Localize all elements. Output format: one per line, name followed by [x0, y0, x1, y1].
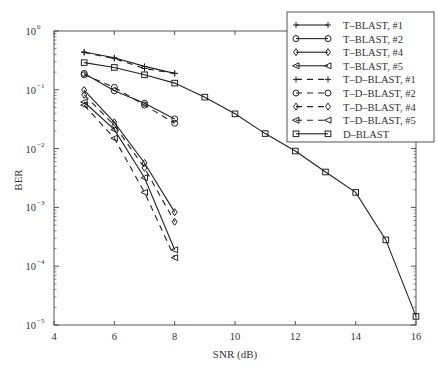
x-tick-label: 8 [172, 331, 177, 342]
y-tick-label: 10 [26, 202, 37, 213]
legend: T–BLAST, #1T–BLAST, #2T–BLAST, #4T–BLAST… [287, 12, 434, 142]
x-tick-label: 6 [112, 331, 117, 342]
y-axis-label: BER [12, 169, 24, 191]
legend-label: T–BLAST, #2 [343, 34, 403, 45]
x-tick-label: 12 [290, 331, 301, 342]
y-tick-label: 10 [26, 144, 37, 155]
series-line [82, 87, 178, 216]
triangle-left-marker-icon [141, 189, 148, 195]
y-tick-exponent: −2 [37, 141, 45, 149]
y-tick-label: 10 [26, 320, 37, 331]
plus-marker-icon [81, 50, 87, 56]
series-line [81, 102, 178, 261]
y-tick-label: 10 [26, 85, 37, 96]
chart-svg: 46810121416 10010−110−210−310−410−5 T–BL… [0, 0, 438, 369]
x-tick-label: 14 [350, 331, 361, 342]
series-line [82, 91, 178, 225]
y-tick-exponent: 0 [37, 23, 41, 31]
plus-marker-icon [172, 70, 178, 76]
y-tick-label: 10 [26, 26, 37, 37]
legend-label: T–BLAST, #1 [343, 20, 403, 31]
series-line [81, 70, 178, 121]
series-path [84, 105, 175, 258]
legend-label: T–D–BLAST, #4 [343, 102, 416, 113]
legend-label: T–BLAST, #5 [343, 61, 403, 72]
x-tick-label: 4 [51, 331, 57, 342]
legend-label: T–D–BLAST, #1 [343, 74, 416, 85]
legend-label: T–BLAST, #4 [343, 47, 404, 58]
series-line [81, 99, 178, 253]
y-tick-exponent: −4 [37, 258, 45, 266]
series-line [81, 49, 178, 76]
legend-label: T–D–BLAST, #5 [343, 115, 416, 126]
series-path [84, 75, 175, 123]
y-tick-exponent: −3 [37, 199, 45, 207]
series-line [81, 50, 178, 77]
x-tick-label: 16 [411, 331, 422, 342]
y-tick-exponent: −5 [37, 317, 45, 325]
legend-label: T–D–BLAST, #2 [343, 88, 416, 99]
x-axis-label: SNR (dB) [213, 348, 258, 361]
plus-marker-icon [111, 56, 117, 62]
y-tick-label: 10 [26, 261, 37, 272]
legend-label: D–BLAST [343, 129, 390, 140]
y-tick-exponent: −1 [37, 82, 45, 90]
x-tick-label: 10 [230, 331, 241, 342]
ber-vs-snr-chart: 46810121416 10010−110−210−310−410−5 T–BL… [0, 0, 438, 369]
series-path [84, 90, 175, 212]
